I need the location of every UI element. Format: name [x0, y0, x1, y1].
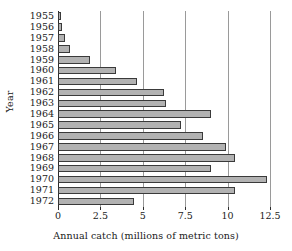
bar-row [58, 185, 270, 196]
bar-1957 [58, 34, 65, 42]
bar-1965 [58, 121, 181, 129]
bar-chart: Year 19551956195719581959196019611962196… [0, 0, 292, 251]
bar-row [58, 142, 270, 153]
plot-area [58, 11, 270, 207]
x-tick-label-5: 5 [140, 210, 146, 221]
bar-row [58, 22, 270, 33]
bar-1969 [58, 165, 211, 173]
x-axis-title: Annual catch (millions of metric tons) [0, 230, 292, 241]
bar-row [58, 87, 270, 98]
bar-1970 [58, 176, 267, 184]
bar-1962 [58, 89, 164, 97]
x-tick-label-7.5: 7.5 [178, 210, 193, 221]
bar-1972 [58, 198, 134, 206]
bar-row [58, 33, 270, 44]
y-tick-label-1967: 1967 [2, 142, 54, 153]
x-tick-label-2.5: 2.5 [93, 210, 108, 221]
bar-row [58, 76, 270, 87]
bar-row [58, 163, 270, 174]
gridline-12.5 [270, 11, 271, 207]
bar-row [58, 109, 270, 120]
bar-1964 [58, 110, 211, 118]
y-tick-label-1972: 1972 [2, 196, 54, 207]
bar-row [58, 44, 270, 55]
bar-row [58, 131, 270, 142]
bar-row [58, 11, 270, 22]
x-tick-label-12.5: 12.5 [259, 210, 280, 221]
x-tick-label-10: 10 [222, 210, 234, 221]
bar-1955 [58, 12, 61, 20]
bar-1960 [58, 67, 116, 75]
bar-row [58, 65, 270, 76]
bar-1958 [58, 45, 70, 53]
bar-row [58, 98, 270, 109]
bar-1966 [58, 132, 203, 140]
y-tick-label-1958: 1958 [2, 44, 54, 55]
bar-1971 [58, 187, 235, 195]
bar-1959 [58, 56, 90, 64]
bar-row [58, 174, 270, 185]
bar-row [58, 196, 270, 207]
bar-1968 [58, 154, 235, 162]
y-tick-label-1957: 1957 [2, 33, 54, 44]
bar-1967 [58, 143, 226, 151]
x-tick-label-0: 0 [55, 210, 61, 221]
bar-row [58, 120, 270, 131]
bar-1963 [58, 100, 166, 108]
bar-1961 [58, 78, 137, 86]
y-tick-label-1966: 1966 [2, 131, 54, 142]
x-axis-ticks: 02.557.51012.5 [58, 207, 270, 223]
bar-1956 [58, 23, 62, 31]
bar-row [58, 55, 270, 66]
bar-row [58, 153, 270, 164]
bar-series [58, 11, 270, 207]
y-axis-tick-labels: 1955195619571958195919601961196219631964… [0, 11, 54, 207]
